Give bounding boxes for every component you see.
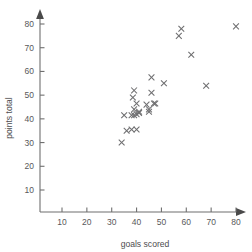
- data-point-marker: [134, 127, 140, 133]
- data-point-marker: [233, 23, 239, 29]
- data-point-marker: [121, 112, 127, 118]
- y-axis-ticks: 1020304050607080: [25, 19, 45, 195]
- data-point-marker: [176, 33, 182, 39]
- scatter-chart: 1020304050607080 1020304050607080 goals …: [0, 0, 252, 252]
- x-axis-title: goals scored: [121, 239, 170, 249]
- y-tick-label: 70: [25, 43, 35, 53]
- x-tick-label: 30: [107, 217, 117, 227]
- data-point-marker: [161, 80, 167, 86]
- y-tick-label: 60: [25, 66, 35, 76]
- arrow-right-icon: [236, 208, 246, 216]
- x-tick-label: 10: [57, 217, 67, 227]
- data-point-marker: [188, 52, 194, 58]
- y-tick-label: 10: [25, 185, 35, 195]
- data-point-marker: [129, 127, 135, 133]
- y-axis-title: points total: [4, 97, 14, 139]
- data-point-marker: [149, 74, 155, 80]
- data-point-marker: [178, 26, 184, 32]
- y-tick-label: 80: [25, 19, 35, 29]
- plot-canvas: 1020304050607080 1020304050607080 goals …: [0, 0, 252, 252]
- data-point-marker: [124, 128, 130, 134]
- arrow-up-icon: [36, 9, 44, 19]
- data-point-marker: [152, 101, 158, 107]
- data-point-marker: [130, 95, 136, 101]
- y-tick-label: 30: [25, 138, 35, 148]
- x-tick-label: 50: [157, 217, 167, 227]
- x-tick-label: 20: [82, 217, 92, 227]
- y-tick-label: 50: [25, 90, 35, 100]
- x-tick-label: 60: [182, 217, 192, 227]
- y-tick-label: 20: [25, 161, 35, 171]
- x-tick-label: 70: [206, 217, 216, 227]
- data-point-marker: [119, 140, 125, 146]
- data-point-marker: [203, 83, 209, 89]
- data-points-layer: [119, 23, 239, 145]
- data-point-marker: [151, 101, 157, 107]
- x-tick-label: 40: [132, 217, 142, 227]
- x-axis-ticks: 1020304050607080: [57, 208, 241, 228]
- data-point-marker: [134, 101, 140, 107]
- y-tick-label: 40: [25, 114, 35, 124]
- x-tick-label: 80: [231, 217, 241, 227]
- data-point-marker: [149, 90, 155, 96]
- data-point-marker: [131, 88, 137, 94]
